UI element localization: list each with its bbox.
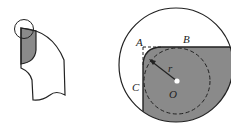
label-b: B xyxy=(183,33,190,45)
circle-figure: A B C O r xyxy=(119,8,231,133)
center-point-o xyxy=(174,78,179,83)
tool-tip-shaded xyxy=(21,28,36,64)
label-c: C xyxy=(132,81,140,93)
label-o: O xyxy=(169,88,177,100)
label-r: r xyxy=(168,62,173,74)
diagram-canvas: A B C O r xyxy=(0,0,231,133)
tool-bit-figure xyxy=(15,20,66,101)
label-a: A xyxy=(135,36,143,48)
shaded-region xyxy=(143,47,231,133)
